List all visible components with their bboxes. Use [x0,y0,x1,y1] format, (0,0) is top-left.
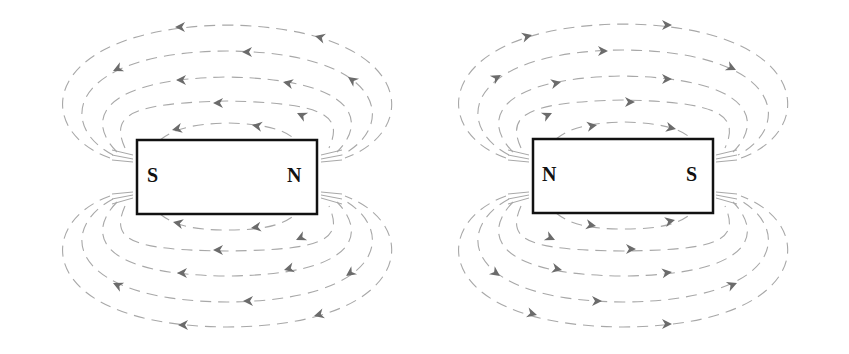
left-magnet-right-pole-label: N [287,164,301,187]
magnetic-field-diagram [0,0,849,354]
right-magnet-left-pole-label: N [542,163,556,186]
left-magnet-left-pole-label: S [147,164,158,187]
right-magnet-right-pole-label: S [686,163,697,186]
